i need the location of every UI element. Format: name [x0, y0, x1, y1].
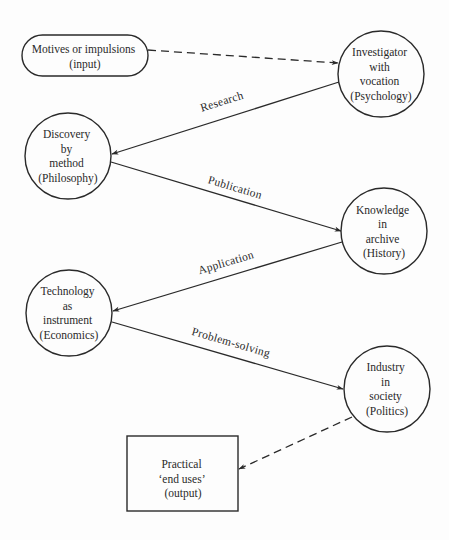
circle-shape [341, 188, 427, 274]
node-motives-input: Motives or impulsions (input) [22, 35, 148, 76]
edge-publication [111, 162, 341, 231]
node-text-line: Discovery [43, 128, 91, 141]
node-text-line: (Philosophy) [38, 172, 98, 185]
node-text-line: in [378, 218, 387, 230]
circle-shape [344, 346, 430, 432]
node-text-line: instrument [43, 314, 93, 326]
svg-text:Practical ‘end uses’: Practical ‘end uses’ (output) [159, 458, 208, 500]
edge-label-research: Research [199, 89, 245, 114]
node-text-line: Practical [161, 458, 201, 470]
node-text-line: Investigator [352, 46, 407, 59]
edge-problem-solving [112, 322, 343, 389]
node-text-line: (Politics) [366, 405, 408, 418]
node-text-line: as [63, 300, 73, 312]
node-text-line: archive [366, 233, 400, 245]
node-text-line: Industry [366, 361, 405, 374]
node-text-line: Motives or impulsions [32, 43, 136, 56]
node-text-line: in [381, 376, 390, 388]
node-practical-output: Practical ‘end uses’ (output) [127, 436, 238, 511]
circle-shape [338, 31, 424, 117]
node-text-line: by [61, 143, 73, 156]
node-text-line: vocation [360, 75, 400, 87]
node-text-line: Knowledge [356, 204, 409, 217]
node-technology: Technology as instrument (Economics) [26, 270, 112, 356]
node-text-line: method [49, 157, 84, 169]
circle-shape [25, 113, 111, 199]
circle-shape [26, 270, 112, 356]
node-text-line: (History) [363, 247, 405, 260]
node-industry: Industry in society (Politics) [344, 346, 430, 432]
node-text-line: (input) [69, 58, 100, 71]
svg-text:Industry in societ: Industry in society (Politics) [366, 361, 408, 418]
node-text-line: (output) [164, 487, 201, 500]
node-text-line: society [369, 390, 402, 403]
edge-label-problem-solving: Problem-solving [190, 325, 272, 360]
node-knowledge: Knowledge in archive (History) [341, 188, 427, 274]
edge-label-application: Application [197, 248, 256, 277]
edge-motives-to-investigator [148, 50, 338, 63]
node-text-line: Technology [40, 285, 94, 298]
node-text-line: with [369, 61, 390, 73]
node-text-line: (Psychology) [350, 90, 412, 103]
node-discovery: Discovery by method (Philosophy) [25, 113, 111, 199]
edge-labels: Research Publication Application Problem… [190, 89, 272, 360]
edge-industry-to-practical [239, 417, 352, 469]
flow-diagram: Research Publication Application Problem… [0, 0, 449, 540]
node-text-line: ‘end uses’ [159, 473, 205, 485]
node-investigator: Investigator with vocation (Psychology) [338, 31, 424, 117]
svg-text:Technology as inst: Technology as instrument (Economics) [40, 285, 99, 342]
edge-label-publication: Publication [207, 173, 264, 200]
edge-application [113, 242, 342, 311]
node-text-line: (Economics) [40, 329, 99, 342]
